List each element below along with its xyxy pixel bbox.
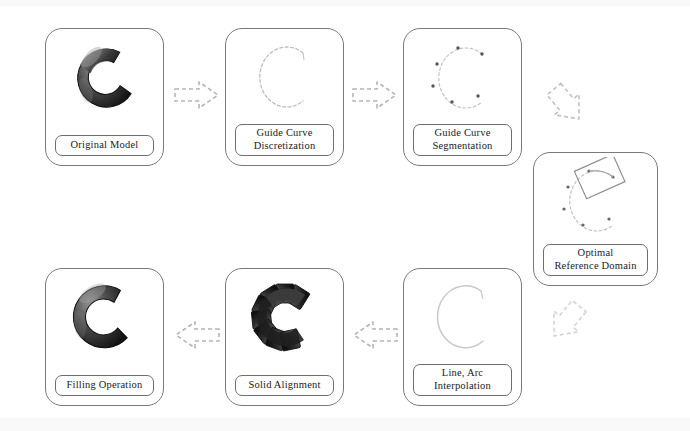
node-line-arc-interpolation[interactable]: Line, Arc Interpolation: [403, 268, 522, 406]
node-filling-operation[interactable]: Filling Operation: [45, 268, 164, 406]
node-label-filling-operation: Filling Operation: [55, 375, 154, 397]
arrow-alignment-to-filling: [172, 318, 222, 352]
node-label-solid-alignment: Solid Alignment: [235, 375, 334, 397]
thumbnail-solid-c-torus-shaded: [46, 33, 163, 121]
node-label-line: Guide Curve: [238, 127, 331, 140]
node-label-line: Discretization: [238, 140, 331, 153]
scan-edge-smudge: [0, 0, 690, 6]
node-label-line: Segmentation: [416, 140, 509, 153]
arrow-interpolation-to-alignment: [350, 318, 400, 352]
thumbnail-faint-c-curve: [226, 33, 343, 121]
node-guide-curve-segmentation[interactable]: Guide Curve Segmentation: [403, 28, 522, 166]
thumbnail-segmented-c-blocks: [226, 273, 343, 361]
node-label-line: Guide Curve: [416, 127, 509, 140]
node-label-guide-curve-segmentation: Guide Curve Segmentation: [413, 124, 512, 156]
thumbnail-c-curve-with-segment-points: [404, 33, 521, 121]
scan-bottom-smudge: [0, 418, 690, 431]
node-optimal-reference-domain[interactable]: Optimal Reference Domain: [533, 152, 658, 286]
thumbnail-c-curve-with-tilted-rectangle: [534, 157, 657, 245]
node-label-guide-curve-discretization: Guide Curve Discretization: [235, 124, 334, 156]
node-label-line: Optimal: [546, 247, 645, 260]
node-label-line: Line, Arc: [416, 367, 509, 380]
node-label-original-model: Original Model: [55, 135, 154, 157]
arrow-discretization-to-segmentation: [350, 78, 400, 112]
node-original-model[interactable]: Original Model: [45, 28, 164, 166]
node-label-line: Solid Alignment: [238, 379, 331, 392]
node-guide-curve-discretization[interactable]: Guide Curve Discretization: [225, 28, 344, 166]
arrow-segmentation-to-domain: [540, 78, 596, 134]
node-label-line: Filling Operation: [58, 379, 151, 392]
arrow-original-to-discretization: [172, 78, 222, 112]
node-label-line-arc-interpolation: Line, Arc Interpolation: [413, 364, 512, 396]
node-label-optimal-reference-domain: Optimal Reference Domain: [543, 244, 648, 276]
node-label-line: Reference Domain: [546, 260, 645, 273]
node-label-line: Interpolation: [416, 380, 509, 393]
node-label-line: Original Model: [58, 139, 151, 152]
thumbnail-faint-c-curve-interpolated: [404, 273, 521, 361]
diagram-canvas: Original Model Guide Curve Discretizatio…: [0, 0, 690, 431]
node-solid-alignment[interactable]: Solid Alignment: [225, 268, 344, 406]
arrow-domain-to-interpolation: [537, 295, 593, 351]
thumbnail-solid-c-filled-shaded: [46, 273, 163, 361]
